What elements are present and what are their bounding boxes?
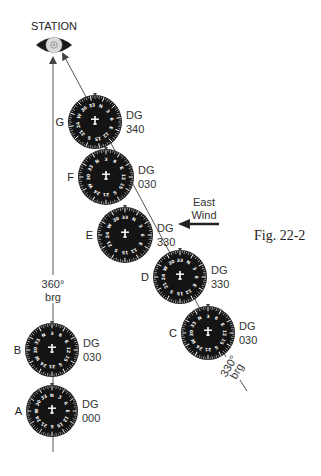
svg-text:15: 15 xyxy=(177,291,183,296)
svg-text:24: 24 xyxy=(105,232,110,238)
station-label: STATION xyxy=(31,20,77,32)
svg-text:15: 15 xyxy=(94,136,101,142)
navigation-diagram: STATION 360° brg 330° brg East Wind Fig.… xyxy=(0,0,321,476)
svg-text:30: 30 xyxy=(86,174,91,180)
svg-text:6: 6 xyxy=(194,275,199,278)
position-label-g: G xyxy=(55,116,64,128)
dg-value: 330 xyxy=(157,236,175,248)
svg-text:21: 21 xyxy=(103,192,109,197)
svg-text:33: 33 xyxy=(177,258,183,263)
svg-text:33: 33 xyxy=(89,102,96,108)
position-label-e: E xyxy=(86,229,93,241)
svg-text:12: 12 xyxy=(66,347,71,353)
dg-value: 030 xyxy=(83,351,101,363)
svg-text:21: 21 xyxy=(49,364,55,369)
svg-text:3: 3 xyxy=(104,157,107,162)
svg-text:3: 3 xyxy=(206,314,209,319)
svg-text:24: 24 xyxy=(161,274,166,280)
svg-text:30: 30 xyxy=(33,347,38,353)
svg-text:W: W xyxy=(34,408,39,413)
dg-value: 030 xyxy=(138,178,156,190)
dg-label: DG xyxy=(126,109,143,121)
position-label-b: B xyxy=(14,344,21,356)
position-label-c: C xyxy=(169,327,177,339)
heading-dial-d: N36E1215S2124W3033 xyxy=(144,241,216,313)
dg-label: DG xyxy=(157,222,174,234)
dg-label: DG xyxy=(138,164,155,176)
station: STATION xyxy=(31,20,77,53)
svg-text:12: 12 xyxy=(222,330,227,336)
dg-value: 030 xyxy=(239,334,257,346)
svg-text:15: 15 xyxy=(122,250,128,255)
heading-dial-e: N36E1215S2124W3033 xyxy=(88,198,162,272)
dg-value: 330 xyxy=(211,278,229,290)
position-label-f: F xyxy=(67,171,74,183)
position-label-d: D xyxy=(141,271,149,283)
wind-label-line1: East xyxy=(193,196,215,208)
position-label-a: A xyxy=(15,405,23,417)
heading-dial-f: N36E1215S2124W3033 xyxy=(69,140,143,214)
station-icon xyxy=(36,37,72,53)
svg-text:3: 3 xyxy=(50,331,53,336)
svg-text:24: 24 xyxy=(75,121,81,128)
bearing-360-sublabel: brg xyxy=(45,291,61,303)
dg-value: 340 xyxy=(126,123,144,135)
dg-label: DG xyxy=(211,264,228,276)
svg-text:E: E xyxy=(65,409,70,412)
dg-label: DG xyxy=(239,320,256,332)
heading-dials: N36E1215S2124W3033ADG000N36E1215S2124W30… xyxy=(14,88,258,437)
heading-dial-a: N36E1215S2124W3033 xyxy=(26,383,78,437)
svg-text:6: 6 xyxy=(140,233,145,236)
dg-label: DG xyxy=(82,398,99,410)
figure-caption: Fig. 22-2 xyxy=(254,228,305,243)
dg-label: DG xyxy=(83,337,100,349)
dg-value: 000 xyxy=(82,412,100,424)
heading-dial-g: N36E1215S2124W3033 xyxy=(61,88,128,155)
svg-text:12: 12 xyxy=(121,174,126,180)
wind-label-line2: Wind xyxy=(191,209,216,221)
bearing-360-label: 360° xyxy=(42,278,65,290)
svg-text:33: 33 xyxy=(122,215,128,220)
svg-text:30: 30 xyxy=(189,330,194,336)
svg-text:21: 21 xyxy=(205,347,211,352)
wind-indicator: East Wind xyxy=(178,196,219,229)
svg-text:S: S xyxy=(50,424,53,429)
heading-dial-b: N36E1215S2124W3033 xyxy=(16,314,88,386)
svg-text:N: N xyxy=(50,393,54,398)
